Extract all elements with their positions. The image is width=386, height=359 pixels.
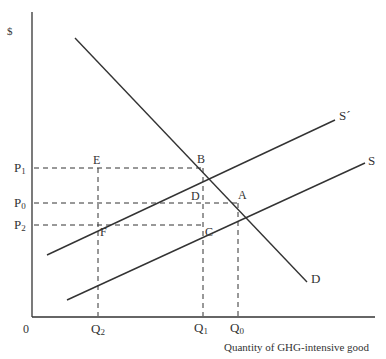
sprime-label: S´ bbox=[339, 108, 351, 123]
p2-text: P bbox=[14, 217, 21, 232]
p0-text: P bbox=[14, 195, 21, 210]
origin-label: 0 bbox=[23, 322, 29, 336]
d-curve-label: D bbox=[311, 271, 320, 286]
q1-sub: 1 bbox=[203, 326, 208, 336]
q1-label: Q1 bbox=[194, 320, 208, 336]
point-f-label: F bbox=[100, 225, 107, 239]
p2-sub: 2 bbox=[21, 223, 26, 233]
guide-lines bbox=[34, 168, 238, 316]
p0-label: P0 bbox=[14, 195, 26, 211]
point-c-label: C bbox=[205, 225, 213, 239]
point-b-label: B bbox=[197, 152, 205, 166]
q0-sub: 0 bbox=[239, 326, 244, 336]
x-axis-title: Quantity of GHG-intensive good bbox=[224, 341, 370, 353]
p2-label: P2 bbox=[14, 217, 26, 233]
dollar-label: $ bbox=[7, 25, 13, 37]
point-a-label: A bbox=[238, 188, 247, 202]
s-label: S bbox=[368, 153, 375, 168]
p0-sub: 0 bbox=[21, 201, 26, 211]
q0-label: Q0 bbox=[230, 320, 244, 336]
demand-curve bbox=[75, 38, 307, 282]
q2-sub: 2 bbox=[100, 327, 105, 337]
supply-curve-shifted bbox=[47, 120, 335, 255]
p1-sub: 1 bbox=[21, 166, 26, 176]
p1-text: P bbox=[14, 160, 21, 175]
q2-label: Q2 bbox=[91, 321, 105, 337]
p1-label: P1 bbox=[14, 160, 26, 176]
supply-demand-diagram: S´ S D B A D C E F $ P1 P0 P2 0 Q2 Q1 Q0… bbox=[0, 0, 386, 359]
point-e-label: E bbox=[93, 153, 100, 167]
point-d-label: D bbox=[191, 189, 200, 203]
